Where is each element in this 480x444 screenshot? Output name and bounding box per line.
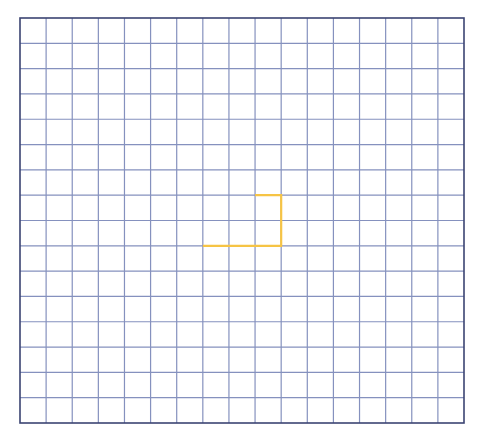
grid-diagram [0, 0, 480, 444]
grid-lines [20, 18, 464, 423]
